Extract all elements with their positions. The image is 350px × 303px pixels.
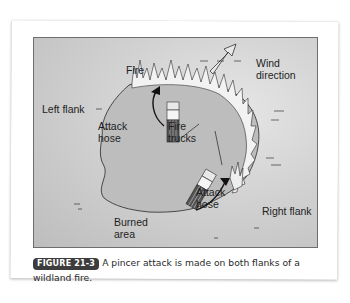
attack-hose-right-label: Attack hose <box>196 187 225 210</box>
fire-label: Fire <box>126 65 144 77</box>
right-flank-label: Right flank <box>262 206 312 218</box>
attack-hose-left-label: Attack hose <box>98 121 127 144</box>
burned-area-label: Burned area <box>114 217 148 240</box>
wildland-fire-diagram: Fire Wind direction Left flank Attack ho… <box>33 37 318 248</box>
fire-trucks-label: Fire trucks <box>168 121 196 144</box>
wind-direction-arrow-icon <box>210 44 236 74</box>
left-flank-label: Left flank <box>42 104 85 116</box>
figure-number-badge: FIGURE 21-3 <box>33 258 99 270</box>
wind-direction-label: Wind direction <box>256 58 317 81</box>
figure-caption: FIGURE 21-3A pincer attack is made on bo… <box>33 255 318 285</box>
